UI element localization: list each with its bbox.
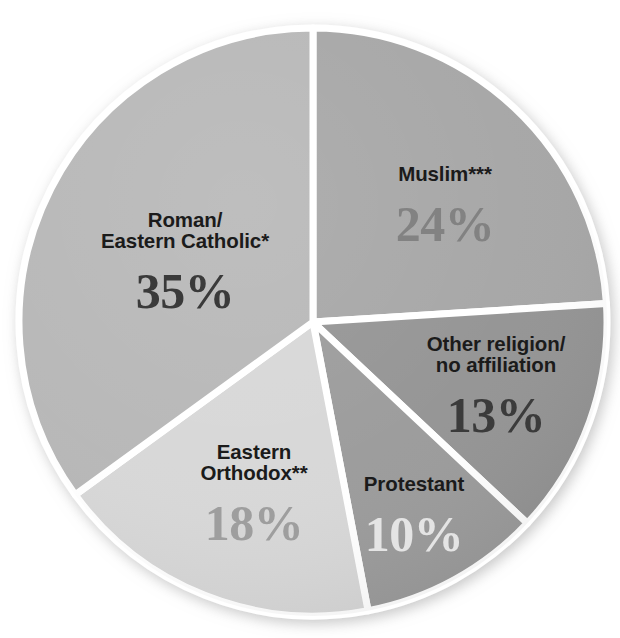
pie-chart: Muslim*** 24% Other religion/ no affilia… bbox=[0, 0, 620, 638]
pie-sheen-overlay bbox=[19, 28, 607, 616]
pie-chart-graphic bbox=[0, 0, 620, 638]
